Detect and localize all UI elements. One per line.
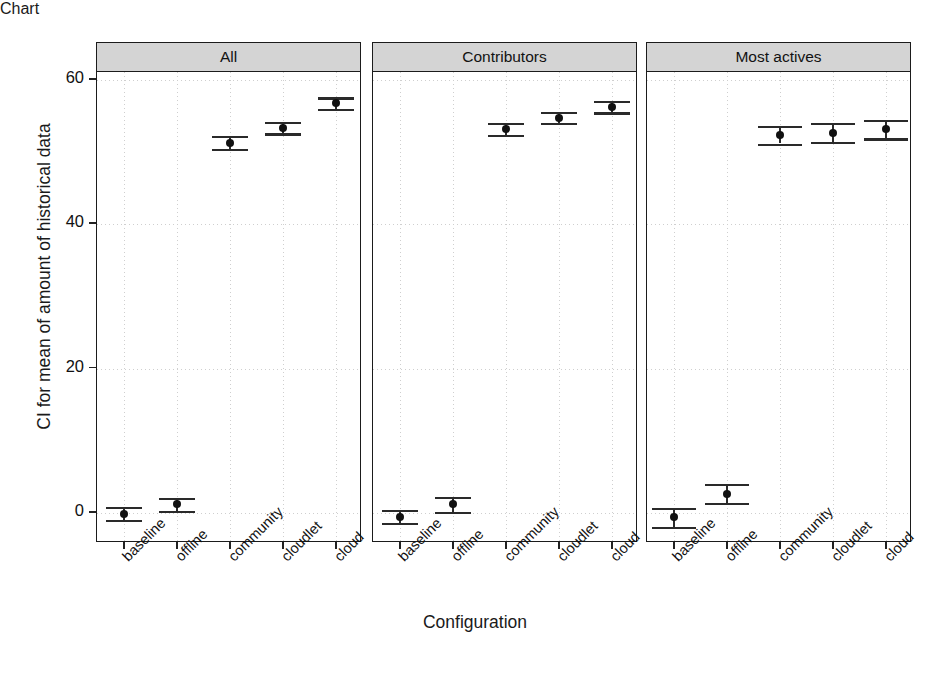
- grid-line-horizontal: [97, 80, 360, 81]
- error-bar-lower: [758, 144, 802, 146]
- y-tick-mark: [89, 367, 96, 369]
- grid-line-horizontal: [647, 224, 910, 225]
- y-tick-mark: [89, 222, 96, 224]
- plot-area: [647, 72, 910, 541]
- data-point: [670, 513, 678, 521]
- chart-figure: CI for mean of amount of historical data…: [0, 0, 950, 676]
- error-bar-lower: [652, 527, 696, 529]
- grid-line-horizontal: [373, 369, 636, 370]
- error-bar-lower: [435, 512, 471, 514]
- grid-line-vertical: [400, 72, 401, 541]
- data-point: [555, 114, 563, 122]
- data-point: [723, 490, 731, 498]
- data-point: [332, 99, 340, 107]
- error-bar-lower: [811, 142, 855, 144]
- panel-strip-label: All: [97, 43, 360, 72]
- grid-line-vertical: [283, 72, 284, 541]
- y-tick-mark: [89, 511, 96, 513]
- data-point: [449, 500, 457, 508]
- data-point: [608, 103, 616, 111]
- error-bar-lower: [318, 109, 354, 111]
- grid-line-vertical: [674, 72, 675, 541]
- error-bar-lower: [488, 135, 524, 137]
- y-tick-label: 20: [42, 357, 84, 376]
- error-bar-lower: [541, 123, 577, 125]
- grid-line-vertical: [177, 72, 178, 541]
- grid-line-horizontal: [97, 513, 360, 514]
- error-bar-lower: [265, 133, 301, 135]
- grid-line-horizontal: [647, 369, 910, 370]
- panel-strip-label: Contributors: [373, 43, 636, 72]
- plot-area: [373, 72, 636, 541]
- grid-line-vertical: [727, 72, 728, 541]
- error-bar-lower: [106, 520, 142, 522]
- data-point: [226, 139, 234, 147]
- grid-line-horizontal: [647, 513, 910, 514]
- y-tick-mark: [89, 78, 96, 80]
- error-bar-lower: [382, 523, 418, 525]
- data-point: [829, 129, 837, 137]
- grid-line-horizontal: [97, 369, 360, 370]
- data-point: [396, 513, 404, 521]
- chart-panel: Contributors: [372, 42, 637, 542]
- error-bar-lower: [864, 138, 908, 140]
- grid-line-vertical: [559, 72, 560, 541]
- data-point: [882, 125, 890, 133]
- grid-line-horizontal: [97, 224, 360, 225]
- panel-strip-label: Most actives: [647, 43, 910, 72]
- grid-line-vertical: [612, 72, 613, 541]
- grid-line-horizontal: [647, 80, 910, 81]
- y-tick-label: 60: [42, 68, 84, 87]
- y-tick-label: 0: [42, 501, 84, 520]
- error-bar-lower: [159, 511, 195, 513]
- grid-line-horizontal: [373, 80, 636, 81]
- data-point: [776, 131, 784, 139]
- data-point: [173, 500, 181, 508]
- grid-line-vertical: [506, 72, 507, 541]
- error-bar-lower: [594, 112, 630, 114]
- grid-line-horizontal: [373, 513, 636, 514]
- error-bar-lower: [212, 149, 248, 151]
- chart-panel: All: [96, 42, 361, 542]
- grid-line-vertical: [124, 72, 125, 541]
- y-axis-title: CI for mean of amount of historical data: [34, 47, 55, 507]
- grid-line-vertical: [336, 72, 337, 541]
- plot-area: [97, 72, 360, 541]
- error-bar-lower: [705, 503, 749, 505]
- y-tick-label: 40: [42, 212, 84, 231]
- data-point: [502, 125, 510, 133]
- grid-line-vertical: [886, 72, 887, 541]
- chart-panel: Most actives: [646, 42, 911, 542]
- grid-line-vertical: [453, 72, 454, 541]
- x-axis-title: Configuration: [0, 612, 950, 633]
- data-point: [120, 510, 128, 518]
- data-point: [279, 124, 287, 132]
- grid-line-horizontal: [373, 224, 636, 225]
